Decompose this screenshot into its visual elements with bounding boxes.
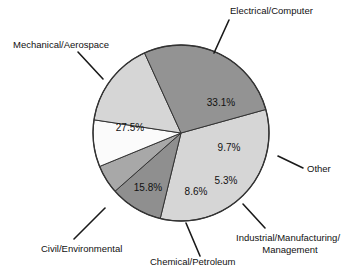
category-label-civil-environmental: Civil/Environmental bbox=[41, 243, 122, 254]
leader-line-mechanical-aerospace bbox=[78, 52, 103, 79]
category-label-industrial-line1: Industrial/Manufacturing/ bbox=[236, 232, 340, 243]
slice-value-chemical-petroleum: 8.6% bbox=[185, 186, 208, 197]
leader-line-chemical-petroleum bbox=[186, 223, 200, 256]
category-label-mechanical-aerospace: Mechanical/Aerospace bbox=[13, 39, 109, 50]
slice-value-civil-environmental: 15.8% bbox=[134, 182, 162, 193]
category-label-industrial-line2: Management bbox=[262, 244, 318, 255]
leader-line-industrial bbox=[243, 204, 265, 228]
slice-value-mechanical-aerospace: 27.5% bbox=[116, 122, 144, 133]
slice-value-electrical-computer: 33.1% bbox=[207, 97, 235, 108]
leader-line-other bbox=[278, 156, 303, 168]
category-label-other: Other bbox=[307, 163, 331, 174]
category-label-chemical-petroleum: Chemical/Petroleum bbox=[150, 256, 236, 267]
category-label-electrical-computer: Electrical/Computer bbox=[230, 5, 313, 16]
pie-chart-figure: 33.1% 27.5% 15.8% 8.6% 5.3% 9.7% Electri… bbox=[0, 0, 352, 269]
slice-value-other: 9.7% bbox=[218, 142, 241, 153]
leader-line-electrical-computer bbox=[214, 20, 229, 53]
pie-chart-svg: 33.1% 27.5% 15.8% 8.6% 5.3% 9.7% Electri… bbox=[0, 0, 352, 269]
slice-value-industrial: 5.3% bbox=[215, 175, 238, 186]
leader-line-civil-environmental bbox=[74, 208, 105, 239]
pie-slices-group bbox=[93, 45, 269, 221]
